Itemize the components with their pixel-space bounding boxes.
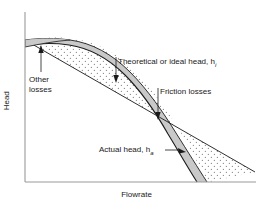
annotation-theoretical-head: Theoretical or ideal head, hi bbox=[118, 57, 216, 70]
x-axis-label: Flowrate bbox=[0, 190, 273, 200]
pump-head-curve-chart bbox=[0, 0, 273, 209]
figure-container: Theoretical or ideal head, hi Friction l… bbox=[0, 0, 273, 209]
annotation-friction-losses-text: Friction losses bbox=[160, 87, 211, 96]
annotation-theoretical-head-text: Theoretical or ideal head, h bbox=[118, 57, 215, 66]
annotation-theoretical-head-subscript: i bbox=[215, 62, 216, 68]
annotation-friction-losses: Friction losses bbox=[160, 87, 211, 97]
y-axis-label: Head bbox=[2, 81, 12, 121]
annotation-actual-head-text: Actual head, h bbox=[99, 145, 150, 154]
annotation-other-losses: Other losses bbox=[29, 75, 65, 95]
annotation-actual-head-subscript: a bbox=[150, 150, 153, 156]
annotation-actual-head: Actual head, ha bbox=[99, 145, 154, 158]
